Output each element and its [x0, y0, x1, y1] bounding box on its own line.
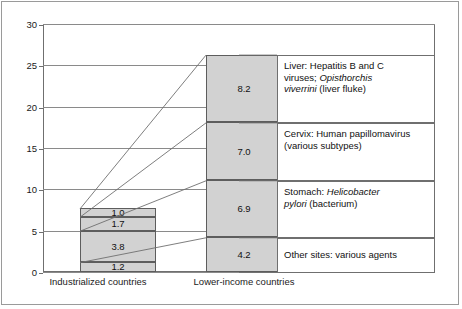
- legend-stomach-line1-plain: Stomach:: [284, 186, 327, 197]
- legend-stomach-line2: pylori (bacterium): [284, 198, 434, 210]
- legend-cervix-line2: (various subtypes): [284, 140, 434, 152]
- legend-item-other-sites: Other sites: various agents: [277, 238, 435, 273]
- bar-segment-stomach-industrialized: 3.8: [80, 231, 156, 262]
- legend-item-stomach: Stomach: Helicobacter pylori (bacterium): [277, 181, 435, 238]
- x-axis-label-industrialized: Industrialized countries: [38, 276, 158, 287]
- bar-lower-income-countries: 8.2 7.0 6.9 4.2: [206, 24, 282, 272]
- bar-segment-value: 1.7: [111, 219, 124, 229]
- bar-segment-value: 4.2: [237, 250, 250, 260]
- ytick-mark-5: [39, 232, 43, 233]
- ytick-mark-10: [39, 190, 43, 191]
- legend-item-cervix: Cervix: Human papillomavirus (various su…: [277, 123, 435, 181]
- bar-segment-value: 7.0: [237, 147, 250, 157]
- bar-segment-value: 6.9: [237, 204, 250, 214]
- ytick-label-30: 30: [26, 20, 37, 30]
- bar-segment-other-industrialized: 1.2: [80, 262, 156, 272]
- ytick-mark-20: [39, 108, 43, 109]
- legend-other-line1: Other sites: various agents: [284, 249, 434, 261]
- ytick-mark-30: [39, 25, 43, 26]
- bar-industrialized-countries: 1.0 1.7 3.8 1.2: [80, 24, 156, 272]
- legend-stomach-line2-italic: pylori: [284, 198, 307, 209]
- legend-stomach-line2-plain: (bacterium): [307, 198, 358, 209]
- bar-segment-cervix-lower-income: 7.0: [206, 122, 282, 180]
- bar-segment-value: 8.2: [237, 84, 250, 94]
- ytick-mark-0: [39, 273, 43, 274]
- bar-segment-liver-lower-income: 8.2: [206, 55, 282, 123]
- bar-segment-value: 1.2: [111, 262, 124, 272]
- ytick-label-15: 15: [26, 144, 37, 154]
- bar-segment-liver-industrialized: 1.0: [80, 208, 156, 216]
- legend-stomach-line1: Stomach: Helicobacter: [284, 186, 434, 198]
- legend-cervix-line1: Cervix: Human papillomavirus: [284, 128, 434, 140]
- figure-stacked-bar-chart: Percentage of cancers 30 25 20 15 10 5: [0, 0, 462, 309]
- x-axis-label-lower-income: Lower-income countries: [184, 276, 304, 287]
- bar-segment-value: 3.8: [111, 242, 124, 252]
- legend-liver-line3: viverrini (liver fluke): [284, 83, 434, 95]
- ytick-label-20: 20: [26, 103, 37, 113]
- bar-segment-cervix-industrialized: 1.7: [80, 217, 156, 231]
- legend-stomach-line1-italic: Helicobacter: [327, 186, 380, 197]
- ytick-label-25: 25: [26, 62, 37, 72]
- legend-liver-line2-italic: Opisthorchis: [319, 72, 372, 83]
- ytick-mark-15: [39, 149, 43, 150]
- legend-liver-line3-italic: viverrini: [284, 83, 317, 94]
- legend-liver-line2-plain: viruses;: [284, 72, 319, 83]
- ytick-mark-25: [39, 66, 43, 67]
- ytick-label-10: 10: [26, 186, 37, 196]
- legend-liver-line1: Liver: Hepatitis B and C: [284, 60, 434, 72]
- bar-segment-other-lower-income: 4.2: [206, 237, 282, 272]
- bar-segment-stomach-lower-income: 6.9: [206, 180, 282, 237]
- legend-item-liver: Liver: Hepatitis B and C viruses; Opisth…: [277, 55, 435, 123]
- ytick-label-5: 5: [32, 227, 37, 237]
- legend-liver-line3-plain: (liver fluke): [317, 83, 366, 94]
- legend-liver-line2: viruses; Opisthorchis: [284, 72, 434, 84]
- ytick-label-0: 0: [32, 268, 37, 278]
